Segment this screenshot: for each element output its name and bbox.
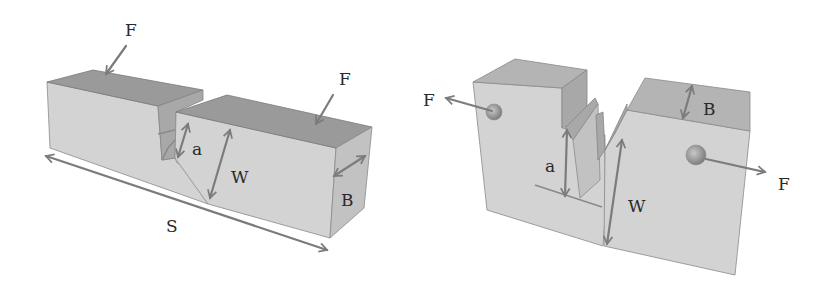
- label-span: S: [166, 216, 178, 236]
- pin-hole-right-icon: [686, 145, 706, 165]
- ct-specimen: F F a W B: [423, 59, 790, 275]
- label-thickness: B: [341, 190, 354, 210]
- label-force-left: F: [125, 20, 137, 40]
- pin-hole-left-icon: [486, 104, 502, 120]
- label-width: W: [231, 167, 249, 187]
- ct-label-force-left: F: [423, 90, 435, 110]
- ct-label-width: W: [628, 196, 646, 216]
- label-crack-length: a: [192, 139, 202, 159]
- ct-label-crack-length: a: [545, 156, 555, 176]
- ct-label-thickness: B: [703, 99, 716, 119]
- senb-specimen: F F a W B S: [46, 20, 372, 250]
- label-force-right: F: [339, 69, 351, 89]
- fracture-specimen-diagram: F F a W B S F: [0, 0, 829, 284]
- ct-right-arm-front-face: [604, 110, 750, 275]
- ct-label-force-right: F: [778, 174, 790, 194]
- force-arrow-left-icon: [106, 46, 126, 74]
